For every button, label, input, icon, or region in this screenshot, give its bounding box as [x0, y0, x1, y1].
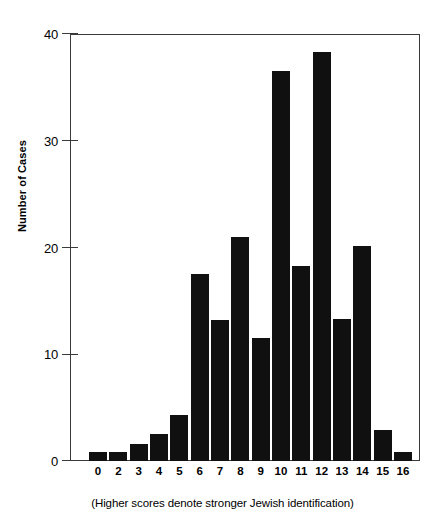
bar: [292, 266, 310, 461]
y-tick-label: 40: [18, 28, 58, 41]
bar: [109, 452, 127, 461]
bar: [130, 444, 148, 461]
x-tick-label: 16: [388, 466, 418, 478]
y-tick-label: 10: [18, 348, 58, 361]
y-tick-label: 30: [18, 135, 58, 148]
y-tick-label: 20: [18, 242, 58, 255]
bar: [150, 434, 168, 461]
bar: [252, 338, 270, 461]
bar: [191, 274, 209, 461]
bar: [231, 237, 249, 461]
bar-chart: Number of Cases 010203040 02345678910111…: [0, 0, 445, 519]
bar: [333, 319, 351, 461]
y-tick-label: 0: [18, 455, 58, 468]
bars-layer: [70, 34, 420, 461]
bar: [170, 415, 188, 461]
bar: [353, 246, 371, 461]
bar: [89, 452, 107, 461]
bar: [272, 71, 290, 461]
bar: [374, 430, 392, 461]
chart-caption: (Higher scores denote stronger Jewish id…: [0, 497, 445, 509]
bar: [313, 52, 331, 461]
bar: [394, 452, 412, 461]
bar: [211, 320, 229, 461]
